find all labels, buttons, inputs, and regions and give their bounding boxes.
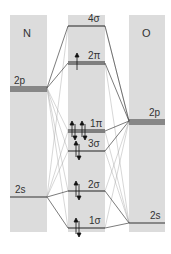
n-2p-label: 2p — [14, 76, 25, 86]
o-2s-label: 2s — [150, 211, 161, 221]
mo-2pi-label: 2π — [88, 51, 100, 61]
mo-1sigma-label: 1σ — [89, 216, 101, 226]
o-2p-label: 2p — [149, 108, 160, 118]
nitrogen-label: N — [23, 28, 31, 38]
mo-1pi-label: 1π — [90, 119, 102, 129]
mo-2sigma-label: 2σ — [88, 180, 100, 190]
mo-3sigma-label: 3σ — [88, 139, 100, 149]
oxygen-label: O — [142, 28, 151, 38]
n-2s-label: 2s — [15, 185, 26, 195]
mo-4sigma-label: 4σ — [88, 14, 100, 24]
